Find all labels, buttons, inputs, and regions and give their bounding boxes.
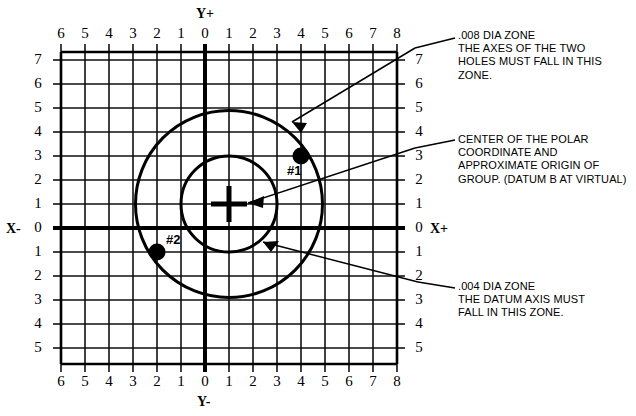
right-tick-label-10: 3 [409,292,429,307]
right-tick-label-4: 3 [409,148,429,163]
top-tick-label-4: 2 [147,26,167,41]
top-tick-label-10: 4 [291,26,311,41]
left-tick-label-5: 2 [28,172,48,187]
bottom-tick-label-14: 8 [387,374,407,389]
bottom-tick-label-9: 3 [267,374,287,389]
top-tick-label-13: 7 [363,26,383,41]
axis-label-y-positive: Y+ [196,6,214,22]
bottom-tick-label-13: 7 [363,374,383,389]
left-tick-label-0: 7 [28,52,48,67]
top-tick-label-14: 8 [387,26,407,41]
top-tick-label-9: 3 [267,26,287,41]
right-tick-label-6: 1 [409,196,429,211]
left-tick-label-1: 6 [28,76,48,91]
top-tick-label-8: 2 [243,26,263,41]
right-tick-label-0: 7 [409,52,429,67]
axis-label-x-negative: X- [6,221,21,237]
left-tick-label-4: 3 [28,148,48,163]
top-tick-label-12: 6 [339,26,359,41]
hole-2-dot [149,244,166,261]
note-008-dia-zone: .008 DIA ZONE THE AXES OF THE TWO HOLES … [458,29,634,82]
axis-label-x-positive: X+ [430,221,448,237]
right-tick-label-8: 1 [409,244,429,259]
left-tick-label-7: 0 [28,220,48,235]
bottom-tick-label-12: 6 [339,374,359,389]
note-polar-center: CENTER OF THE POLAR COORDINATE AND APPRO… [458,133,636,186]
bottom-tick-label-6: 0 [195,374,215,389]
top-tick-label-1: 5 [75,26,95,41]
diagram-page: 6 5 4 3 2 1 0 1 2 3 4 5 6 7 8 6 5 4 3 2 … [0,0,636,416]
left-tick-label-3: 4 [28,124,48,139]
right-tick-label-2: 5 [409,100,429,115]
left-tick-label-12: 5 [28,340,48,355]
note-004-dia-zone: .004 DIA ZONE THE DATUM AXIS MUST FALL I… [458,280,634,320]
left-tick-label-11: 4 [28,316,48,331]
bottom-tick-label-11: 5 [315,374,335,389]
left-tick-label-6: 1 [28,196,48,211]
right-tick-label-3: 4 [409,124,429,139]
bottom-tick-label-3: 3 [123,374,143,389]
top-tick-label-3: 3 [123,26,143,41]
top-tick-label-0: 6 [51,26,71,41]
bottom-tick-label-1: 5 [75,374,95,389]
hole-1-dot [293,148,310,165]
bottom-tick-label-4: 2 [147,374,167,389]
axis-label-y-negative: Y- [197,394,211,410]
bottom-tick-label-2: 4 [99,374,119,389]
top-tick-label-11: 5 [315,26,335,41]
right-tick-label-12: 5 [409,340,429,355]
left-tick-label-10: 3 [28,292,48,307]
top-tick-label-7: 1 [219,26,239,41]
top-tick-label-2: 4 [99,26,119,41]
bottom-tick-label-0: 6 [51,374,71,389]
right-tick-label-9: 2 [409,268,429,283]
bottom-tick-label-5: 1 [171,374,191,389]
left-tick-label-9: 2 [28,268,48,283]
bottom-tick-label-8: 2 [243,374,263,389]
left-tick-label-8: 1 [28,244,48,259]
top-tick-label-6: 0 [195,26,215,41]
hole-1-label: #1 [287,163,301,178]
bottom-tick-label-10: 4 [291,374,311,389]
right-tick-label-5: 2 [409,172,429,187]
hole-2-label: #2 [166,232,180,247]
right-tick-label-11: 4 [409,316,429,331]
right-tick-label-7: 0 [409,220,429,235]
right-tick-label-1: 6 [409,76,429,91]
left-tick-label-2: 5 [28,100,48,115]
bottom-tick-label-7: 1 [219,374,239,389]
center-cross-marker [211,186,247,222]
top-tick-label-5: 1 [171,26,191,41]
